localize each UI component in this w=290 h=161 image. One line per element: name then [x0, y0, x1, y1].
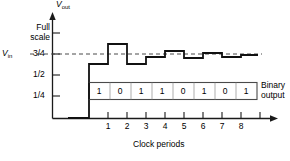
x-tick-label-3: 3: [140, 121, 152, 131]
vin-label-text: V: [2, 48, 8, 58]
full-scale-label: Full scale: [22, 22, 50, 42]
binary-digit-8: 1: [239, 86, 253, 96]
binary-digit-7: 0: [218, 86, 232, 96]
y-axis-title: Vout: [56, 0, 70, 11]
binary-digit-5: 0: [176, 86, 190, 96]
x-tick-label-4: 4: [159, 121, 171, 131]
binary-digit-6: 1: [197, 86, 211, 96]
figure-container: Vout Full scale 3/4 1/2 1/4 Vin 1 0 1 1 …: [0, 0, 290, 161]
y-tick-label-1-2: 1/2: [33, 70, 45, 80]
y-axis-ticks: [53, 33, 61, 96]
x-axis-ticks: [108, 112, 260, 119]
x-tick-label-8: 8: [235, 121, 247, 131]
x-axis-title: Clock periods: [133, 139, 185, 149]
x-tick-label-5: 5: [178, 121, 190, 131]
vin-label-subscript: in: [8, 53, 13, 59]
x-tick-label-7: 7: [216, 121, 228, 131]
full-scale-label-line1: Full: [22, 22, 50, 32]
binary-digit-4: 1: [155, 86, 169, 96]
y-axis-title-text: V: [56, 0, 62, 9]
x-tick-label-2: 2: [121, 121, 133, 131]
binary-digit-1: 1: [92, 86, 106, 96]
binary-output-label: Binary output: [261, 80, 285, 100]
binary-digit-3: 1: [134, 86, 148, 96]
y-tick-label-1-4: 1/4: [33, 91, 45, 101]
binary-digit-2: 0: [113, 86, 127, 96]
dac-staircase-waveform: [68, 44, 258, 118]
x-tick-label-1: 1: [102, 121, 114, 131]
y-axis-title-subscript: out: [62, 4, 70, 10]
binary-output-label-line1: Binary: [261, 80, 285, 90]
full-scale-label-line2: scale: [22, 32, 50, 42]
vin-label: Vin: [2, 49, 12, 60]
y-axis: [49, 12, 55, 119]
binary-output-label-line2: output: [261, 90, 285, 100]
x-tick-label-6: 6: [197, 121, 209, 131]
y-tick-label-3-4: 3/4: [33, 49, 45, 59]
